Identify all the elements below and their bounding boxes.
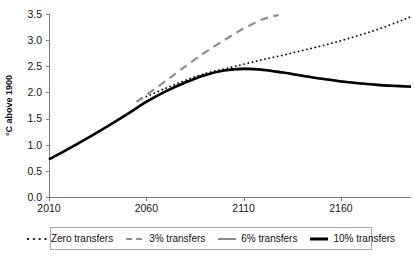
y-tick-label: 1.5 [27, 112, 42, 124]
legend-label-6-percent-transfers: 6% transfers [241, 233, 297, 244]
axes [46, 14, 412, 201]
figure-container: 0.00.51.01.52.02.53.03.52010206021102160… [0, 0, 415, 259]
y-axis-title: °C above 1900 [4, 75, 14, 136]
legend-label-zero-transfers: Zero transfers [51, 233, 113, 244]
series-line-10-percent-transfers [49, 69, 411, 159]
y-tick-label: 0.0 [27, 191, 42, 203]
x-tick-label: 2110 [232, 202, 255, 214]
plot-area: 0.00.51.01.52.02.53.03.52010206021102160… [0, 0, 415, 215]
line-chart: 0.00.51.01.52.02.53.03.52010206021102160… [0, 0, 415, 215]
legend-swatch-dashed-icon [125, 235, 145, 243]
legend-label-10-percent-transfers: 10% transfers [333, 233, 395, 244]
legend-item-zero-transfers[interactable]: Zero transfers [27, 233, 113, 244]
y-tick-label: 3.5 [27, 8, 42, 20]
axis-labels: 0.00.51.01.52.02.53.03.52010206021102160… [4, 8, 353, 214]
x-tick-label: 2060 [135, 202, 159, 214]
legend-swatch-solid-thick-icon [309, 235, 329, 243]
legend-label-3-percent-transfers: 3% transfers [149, 233, 205, 244]
y-tick-label: 3.0 [27, 34, 42, 46]
series-lines [49, 15, 411, 159]
x-tick-label: 2160 [329, 202, 353, 214]
legend-item-6-percent-transfers[interactable]: 6% transfers [217, 233, 297, 244]
y-tick-label: 2.0 [27, 86, 42, 98]
x-tick-label: 2010 [37, 202, 61, 214]
legend-swatch-solid-thin-icon [217, 235, 237, 243]
y-tick-label: 0.5 [27, 165, 42, 177]
series-line-3-percent-transfers [137, 15, 279, 102]
legend-swatch-dotted-icon [27, 235, 47, 243]
y-tick-label: 2.5 [27, 60, 42, 72]
legend-item-3-percent-transfers[interactable]: 3% transfers [125, 233, 205, 244]
y-tick-label: 1.0 [27, 139, 42, 151]
legend-item-10-percent-transfers[interactable]: 10% transfers [309, 233, 395, 244]
legend: Zero transfers 3% transfers 6% transfers [50, 227, 372, 250]
